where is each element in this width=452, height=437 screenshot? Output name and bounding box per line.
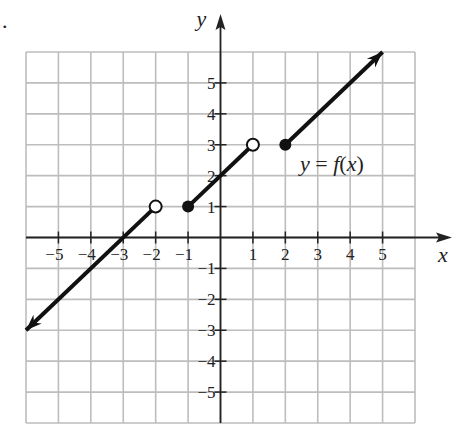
y-tick-label: 5 bbox=[207, 74, 216, 93]
y-tick-label: −1 bbox=[197, 259, 215, 278]
x-tick-label: −2 bbox=[143, 245, 161, 264]
y-tick-label: −3 bbox=[197, 321, 215, 340]
x-tick-label: 1 bbox=[249, 245, 258, 264]
x-tick-label: 2 bbox=[281, 245, 290, 264]
function-label: y = f(x) bbox=[298, 151, 364, 176]
piecewise-function-graph: −5−4−3−2−112345−5−4−3−2−112345xyy = f(x) bbox=[0, 0, 452, 437]
open-circle-marker bbox=[150, 201, 162, 213]
x-tick-label: −5 bbox=[45, 245, 63, 264]
x-tick-label: 5 bbox=[378, 245, 387, 264]
closed-circle-marker bbox=[182, 201, 194, 213]
y-tick-label: −5 bbox=[197, 383, 215, 402]
y-tick-label: 4 bbox=[207, 105, 216, 124]
x-tick-label: 3 bbox=[314, 245, 323, 264]
x-tick-label: 4 bbox=[346, 245, 355, 264]
y-tick-label: 3 bbox=[207, 136, 216, 155]
open-circle-marker bbox=[247, 139, 259, 151]
y-tick-label: 1 bbox=[207, 198, 216, 217]
x-tick-label: −1 bbox=[175, 245, 193, 264]
y-tick-label: −2 bbox=[197, 290, 215, 309]
x-tick-label: −4 bbox=[78, 245, 97, 264]
closed-circle-marker bbox=[279, 139, 291, 151]
function-segment bbox=[285, 52, 382, 145]
x-axis-label: x bbox=[437, 242, 448, 267]
y-axis-label: y bbox=[195, 6, 207, 31]
y-tick-label: −4 bbox=[197, 352, 216, 371]
